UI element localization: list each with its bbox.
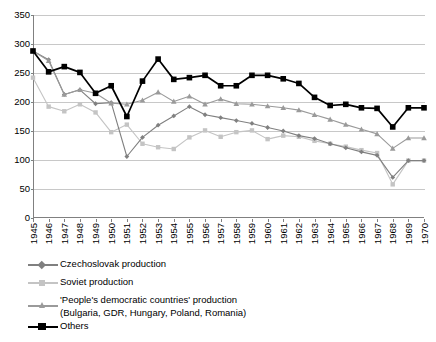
triangle-marker-icon	[218, 96, 224, 101]
x-tick-mark	[174, 219, 175, 222]
legend-item-czechoslovak: Czechoslovak production	[26, 258, 356, 276]
x-tick-mark	[80, 219, 81, 222]
x-tick-mark	[393, 219, 394, 222]
square-marker-icon	[30, 48, 36, 54]
square-marker-icon	[77, 70, 83, 76]
square-marker-icon	[280, 76, 286, 82]
square-marker-icon	[265, 137, 269, 141]
x-tick-mark	[49, 219, 50, 222]
x-tick-label: 1957	[215, 223, 226, 244]
x-tick-label: 1953	[153, 223, 164, 244]
x-tick-label: 1959	[246, 223, 257, 244]
square-marker-icon	[234, 130, 238, 134]
legend-item-others: Others	[26, 320, 356, 338]
diamond-marker-icon	[234, 118, 239, 123]
square-marker-icon	[391, 182, 395, 186]
x-tick-mark	[283, 219, 284, 222]
legend-label-soviet: Soviet production	[60, 276, 133, 289]
chart-legend: Czechoslovak production Soviet productio…	[26, 258, 356, 338]
square-marker-icon	[281, 133, 285, 137]
legend-key-peoples-democratic	[26, 294, 60, 307]
legend-label-peoples-democratic-wrap: 'People's democratic countries' producti…	[60, 294, 246, 319]
square-marker-icon	[202, 73, 208, 79]
series-line	[33, 51, 424, 177]
x-tick-label: 1961	[278, 223, 289, 244]
series-line	[33, 78, 424, 185]
square-marker-icon	[187, 135, 191, 139]
legend-label-czechoslovak: Czechoslovak production	[60, 258, 166, 271]
square-marker-icon	[296, 81, 302, 87]
x-tick-label: 1949	[90, 223, 101, 244]
series-4	[30, 48, 427, 130]
square-marker-icon	[62, 109, 66, 113]
x-tick-mark	[158, 219, 159, 222]
diamond-marker-icon	[203, 112, 208, 117]
x-tick-label: 1964	[325, 223, 336, 244]
x-tick-label: 1945	[28, 223, 39, 244]
diamond-marker-icon	[265, 125, 270, 130]
square-marker-icon	[390, 124, 396, 130]
square-marker-icon	[250, 128, 254, 132]
triangle-marker-icon	[187, 93, 193, 98]
square-marker-icon	[38, 323, 46, 331]
legend-label-others: Others	[60, 320, 89, 333]
square-marker-icon	[218, 83, 224, 89]
series-line	[33, 51, 424, 127]
x-tick-label: 1947	[59, 223, 70, 244]
x-tick-mark	[408, 219, 409, 222]
square-marker-icon	[265, 73, 271, 79]
legend-item-soviet: Soviet production	[26, 276, 356, 294]
x-tick-label: 1948	[74, 223, 85, 244]
square-marker-icon	[374, 106, 380, 112]
legend-label-peoples-democratic: 'People's democratic countries' producti…	[60, 294, 246, 307]
x-tick-label: 1952	[137, 223, 148, 244]
x-tick-label: 1970	[419, 223, 430, 244]
x-tick-label: 1966	[356, 223, 367, 244]
x-tick-mark	[221, 219, 222, 222]
square-marker-icon	[203, 128, 207, 132]
diamond-marker-icon	[218, 115, 223, 120]
square-marker-icon	[155, 56, 161, 62]
x-tick-label: 1946	[43, 223, 54, 244]
triangle-marker-icon	[140, 97, 146, 102]
x-tick-mark	[127, 219, 128, 222]
x-tick-label: 1967	[372, 223, 383, 244]
square-marker-icon	[108, 83, 114, 89]
square-marker-icon	[421, 105, 427, 111]
square-marker-icon	[125, 122, 129, 126]
square-marker-icon	[140, 142, 144, 146]
x-tick-label: 1958	[231, 223, 242, 244]
square-marker-icon	[312, 95, 318, 101]
x-tick-label: 1960	[262, 223, 273, 244]
square-marker-icon	[93, 110, 97, 114]
x-tick-mark	[377, 219, 378, 222]
x-tick-mark	[142, 219, 143, 222]
x-tick-label: 1954	[168, 223, 179, 244]
x-tick-mark	[96, 219, 97, 222]
diamond-marker-icon	[281, 129, 286, 134]
x-tick-mark	[346, 219, 347, 222]
x-tick-label: 1965	[340, 223, 351, 244]
square-marker-icon	[187, 75, 193, 81]
x-tick-mark	[205, 219, 206, 222]
series-1	[31, 49, 427, 180]
x-tick-label: 1951	[121, 223, 132, 244]
x-tick-mark	[299, 219, 300, 222]
square-marker-icon	[46, 104, 50, 108]
x-tick-mark	[252, 219, 253, 222]
square-marker-icon	[171, 77, 177, 83]
x-tick-mark	[315, 219, 316, 222]
legend-label-peoples-democratic-detail: (Bulgaria, GDR, Hungary, Poland, Romania…	[60, 307, 246, 320]
x-axis-labels: 1945194619471948194919501951195219531954…	[33, 219, 424, 263]
triangle-marker-icon	[155, 89, 161, 94]
square-marker-icon	[124, 114, 130, 120]
square-marker-icon	[109, 130, 113, 134]
square-marker-icon	[249, 73, 255, 79]
x-tick-mark	[33, 219, 34, 222]
square-marker-icon	[31, 75, 35, 79]
square-marker-icon	[61, 64, 67, 70]
x-tick-mark	[330, 219, 331, 222]
square-marker-icon	[172, 147, 176, 151]
square-marker-icon	[406, 105, 412, 111]
x-tick-mark	[361, 219, 362, 222]
